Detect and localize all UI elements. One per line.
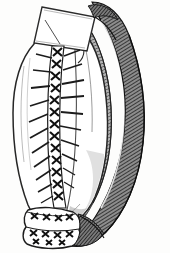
engraving-canvas xyxy=(0,0,170,253)
engraving-figure xyxy=(0,0,170,253)
stitched-cuff xyxy=(23,208,80,249)
